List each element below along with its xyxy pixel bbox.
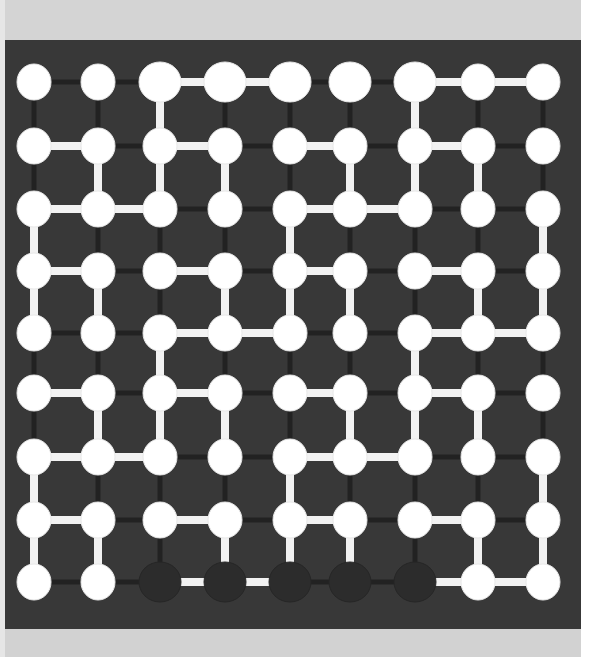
peg-node[interactable] [526, 564, 560, 600]
peg-node[interactable] [273, 128, 307, 164]
peg-node[interactable] [461, 315, 495, 351]
peg-node[interactable] [17, 564, 51, 600]
peg-node[interactable] [81, 128, 115, 164]
peg-node[interactable] [461, 128, 495, 164]
peg-node[interactable] [333, 128, 367, 164]
game-board [5, 40, 581, 629]
peg-node[interactable] [208, 128, 242, 164]
peg-node[interactable] [81, 564, 115, 600]
peg-node[interactable] [333, 439, 367, 475]
peg-node[interactable] [139, 62, 181, 102]
peg-node[interactable] [398, 315, 432, 351]
peg-node[interactable] [81, 64, 115, 100]
bottom-frame [5, 629, 581, 657]
peg-node[interactable] [333, 375, 367, 411]
peg-node[interactable] [526, 375, 560, 411]
empty-peg-hole[interactable] [329, 562, 371, 602]
peg-node[interactable] [143, 253, 177, 289]
peg-node[interactable] [273, 375, 307, 411]
peg-node[interactable] [461, 502, 495, 538]
peg-node[interactable] [143, 439, 177, 475]
peg-node[interactable] [81, 191, 115, 227]
peg-node[interactable] [81, 502, 115, 538]
peg-node[interactable] [398, 439, 432, 475]
peg-node[interactable] [208, 502, 242, 538]
peg-node[interactable] [17, 253, 51, 289]
peg-node[interactable] [526, 191, 560, 227]
peg-node[interactable] [17, 191, 51, 227]
peg-node[interactable] [204, 62, 246, 102]
peg-node[interactable] [398, 502, 432, 538]
peg-node[interactable] [398, 375, 432, 411]
peg-node[interactable] [208, 253, 242, 289]
peg-node[interactable] [17, 128, 51, 164]
peg-node[interactable] [143, 315, 177, 351]
peg-node[interactable] [461, 375, 495, 411]
peg-node[interactable] [208, 315, 242, 351]
peg-node[interactable] [273, 439, 307, 475]
peg-node[interactable] [273, 253, 307, 289]
empty-peg-hole[interactable] [394, 562, 436, 602]
empty-peg-hole[interactable] [204, 562, 246, 602]
peg-node[interactable] [81, 253, 115, 289]
peg-node[interactable] [17, 439, 51, 475]
peg-node[interactable] [461, 564, 495, 600]
peg-node[interactable] [394, 62, 436, 102]
peg-node[interactable] [273, 315, 307, 351]
peg-node[interactable] [461, 439, 495, 475]
top-frame [5, 0, 581, 40]
board-grid [5, 40, 581, 629]
peg-node[interactable] [143, 502, 177, 538]
peg-node[interactable] [461, 191, 495, 227]
peg-node[interactable] [333, 253, 367, 289]
peg-node[interactable] [269, 62, 311, 102]
peg-node[interactable] [143, 191, 177, 227]
peg-node[interactable] [143, 128, 177, 164]
node-layer [17, 62, 560, 602]
peg-node[interactable] [329, 62, 371, 102]
peg-node[interactable] [273, 502, 307, 538]
peg-node[interactable] [143, 375, 177, 411]
peg-node[interactable] [333, 191, 367, 227]
peg-node[interactable] [208, 439, 242, 475]
peg-node[interactable] [81, 375, 115, 411]
peg-node[interactable] [398, 191, 432, 227]
peg-node[interactable] [81, 315, 115, 351]
peg-node[interactable] [17, 64, 51, 100]
peg-node[interactable] [526, 253, 560, 289]
peg-node[interactable] [526, 439, 560, 475]
peg-node[interactable] [526, 315, 560, 351]
peg-node[interactable] [333, 502, 367, 538]
peg-node[interactable] [526, 128, 560, 164]
peg-node[interactable] [526, 502, 560, 538]
peg-node[interactable] [398, 128, 432, 164]
peg-node[interactable] [398, 253, 432, 289]
peg-node[interactable] [17, 502, 51, 538]
peg-node[interactable] [17, 315, 51, 351]
peg-node[interactable] [461, 253, 495, 289]
peg-node[interactable] [208, 375, 242, 411]
peg-node[interactable] [208, 191, 242, 227]
peg-node[interactable] [333, 315, 367, 351]
peg-node[interactable] [273, 191, 307, 227]
peg-node[interactable] [526, 64, 560, 100]
peg-node[interactable] [17, 375, 51, 411]
peg-node[interactable] [461, 64, 495, 100]
empty-peg-hole[interactable] [139, 562, 181, 602]
peg-node[interactable] [81, 439, 115, 475]
empty-peg-hole[interactable] [269, 562, 311, 602]
